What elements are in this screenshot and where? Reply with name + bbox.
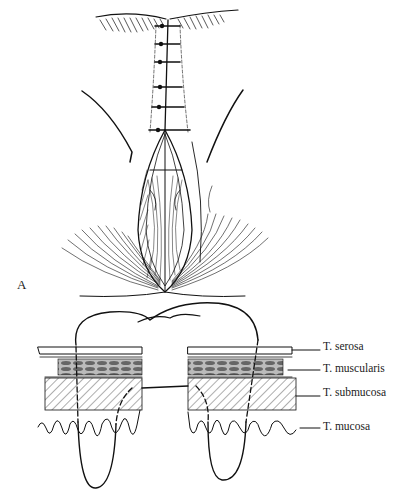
layer-label-submucosa: T. submucosa <box>323 386 386 398</box>
layer-label-muscularis: T. muscularis <box>323 362 385 374</box>
suture-closure-drawing <box>0 0 407 300</box>
tissue-layer-cross-section <box>0 300 407 498</box>
panel-b-illustration: B <box>0 300 407 498</box>
layer-label-mucosa: T. mucosa <box>323 420 370 432</box>
layer-label-serosa: T. serosa <box>323 340 364 352</box>
panel-label-a: A <box>17 277 26 293</box>
panel-a-illustration: A <box>0 0 407 300</box>
